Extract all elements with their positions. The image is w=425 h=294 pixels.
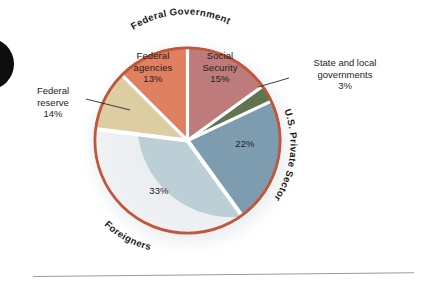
callout-state-and-local-value: 3% xyxy=(338,80,352,91)
slice-label-federal-agencies-line2: agencies xyxy=(122,62,184,74)
slice-label-us-private-sector-value: 22% xyxy=(228,138,262,150)
callout-federal-reserve-value: 14% xyxy=(43,108,62,119)
slice-label-foreigners-value: 33% xyxy=(142,185,176,197)
slice-label-federal-agencies-value: 13% xyxy=(122,73,184,85)
page-bottom-rule xyxy=(33,272,414,277)
slice-label-social-security-line1: Social xyxy=(190,50,250,62)
callout-federal-reserve: Federal reserve 14% xyxy=(22,85,84,120)
slice-label-social-security: Social Security 15% xyxy=(190,50,250,85)
callout-federal-reserve-line1: Federal xyxy=(37,85,69,96)
figure-page: Federal agencies 13% Social Security 15%… xyxy=(0,0,425,294)
group-label-federal-government: Federal Government xyxy=(129,5,233,31)
slice-label-social-security-value: 15% xyxy=(190,73,250,85)
callout-state-and-local-line1: State and local xyxy=(314,57,377,68)
slice-label-social-security-line2: Security xyxy=(190,62,250,74)
scan-artifact-blob xyxy=(0,38,14,90)
slice-label-federal-agencies-line1: Federal xyxy=(122,50,184,62)
group-label-federal-government-text: Federal Government xyxy=(129,5,233,31)
slice-label-federal-agencies: Federal agencies 13% xyxy=(122,50,184,85)
callout-state-and-local-line2: governments xyxy=(318,69,373,80)
callout-state-and-local-governments: State and local governments 3% xyxy=(290,57,400,92)
callout-federal-reserve-line2: reserve xyxy=(37,97,69,108)
